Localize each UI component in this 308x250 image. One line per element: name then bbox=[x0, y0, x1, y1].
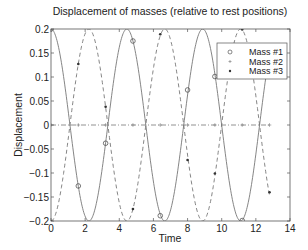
marker-dot bbox=[104, 105, 107, 108]
chart-figure: Displacement of masses (relative to rest… bbox=[0, 0, 308, 250]
y-tick-label: −0.05 bbox=[24, 144, 50, 155]
marker-dot bbox=[132, 208, 135, 211]
legend-label-mass-3: Mass #3 bbox=[249, 66, 283, 76]
legend-label-mass-1: Mass #1 bbox=[249, 47, 283, 57]
y-tick-label: 0.05 bbox=[30, 96, 50, 107]
y-tick-label: 0 bbox=[43, 120, 49, 131]
marker-dot bbox=[159, 33, 162, 36]
legend: Mass #1Mass #2Mass #3 bbox=[217, 43, 287, 79]
legend-label-mass-2: Mass #2 bbox=[249, 57, 283, 67]
marker-plus bbox=[268, 123, 272, 127]
marker-circle bbox=[185, 88, 190, 93]
marker-plus bbox=[158, 123, 162, 127]
x-tick-label: 10 bbox=[216, 223, 228, 234]
x-tick-label: 12 bbox=[250, 223, 262, 234]
y-tick-label: −0.1 bbox=[29, 168, 49, 179]
x-tick-label: 14 bbox=[284, 223, 296, 234]
x-tick-label: 8 bbox=[185, 223, 191, 234]
y-tick-label: 0.15 bbox=[30, 48, 50, 59]
y-tick-label: −0.15 bbox=[24, 192, 50, 203]
y-axis-label: Displacement bbox=[12, 93, 24, 157]
marker-dot bbox=[77, 63, 80, 66]
chart-title: Displacement of masses (relative to rest… bbox=[53, 5, 288, 17]
marker-plus bbox=[186, 123, 190, 127]
marker-plus bbox=[104, 123, 108, 127]
marker-plus bbox=[131, 123, 135, 127]
y-tick-label: −0.2 bbox=[29, 216, 49, 227]
x-tick-label: 6 bbox=[151, 223, 157, 234]
y-tick-label: 0.2 bbox=[35, 24, 49, 35]
marker-plus bbox=[240, 123, 244, 127]
x-tick-label: 2 bbox=[82, 223, 88, 234]
marker-plus bbox=[77, 123, 81, 127]
x-tick-label: 4 bbox=[117, 223, 123, 234]
x-tick-label: 0 bbox=[48, 223, 54, 234]
displacement-plot: Displacement of masses (relative to rest… bbox=[0, 0, 308, 250]
marker-plus bbox=[213, 123, 217, 127]
marker-dot bbox=[186, 159, 189, 162]
y-tick-label: 0.1 bbox=[35, 72, 49, 83]
marker-dot bbox=[268, 191, 271, 194]
marker-dot bbox=[241, 28, 244, 31]
marker-dot bbox=[214, 172, 217, 175]
x-axis-label: Time bbox=[159, 232, 182, 244]
